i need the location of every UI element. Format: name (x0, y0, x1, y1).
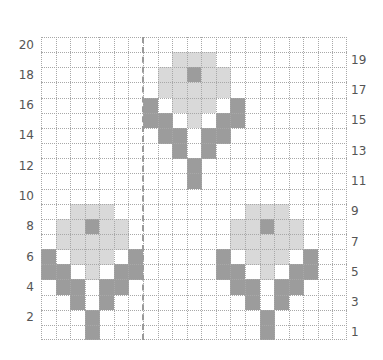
center-dashed-line (142, 37, 144, 340)
row-label-left: 10 (0, 189, 34, 203)
row-label-right: 13 (351, 144, 381, 158)
row-label-right: 7 (351, 235, 381, 249)
row-label-left: 8 (0, 219, 34, 233)
row-label-left: 12 (0, 159, 34, 173)
row-label-right: 11 (351, 174, 381, 188)
row-label-right: 17 (351, 83, 381, 97)
row-label-left: 20 (0, 38, 34, 52)
grid-frame (41, 37, 347, 340)
row-label-right: 19 (351, 53, 381, 67)
row-label-left: 16 (0, 98, 34, 112)
row-label-left: 4 (0, 280, 34, 294)
row-label-right: 15 (351, 113, 381, 127)
row-label-right: 3 (351, 295, 381, 309)
row-label-right: 5 (351, 265, 381, 279)
row-label-left: 14 (0, 128, 34, 142)
row-label-right: 9 (351, 204, 381, 218)
knitting-chart-grid (41, 37, 347, 340)
row-label-left: 2 (0, 310, 34, 324)
row-label-left: 18 (0, 68, 34, 82)
row-label-right: 1 (351, 325, 381, 339)
row-label-left: 6 (0, 250, 34, 264)
